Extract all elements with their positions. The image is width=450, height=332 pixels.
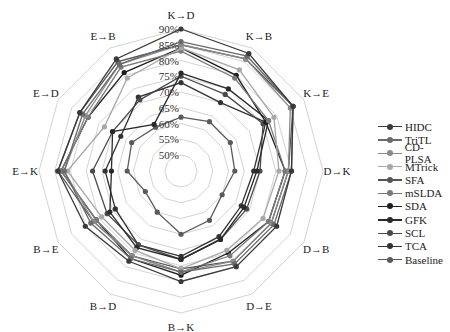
legend-label: SCL [405,227,425,239]
data-point [226,86,231,91]
data-point [178,80,183,85]
axis-label: K→B [246,30,272,42]
radial-tick-label: 60% [159,118,179,130]
series-line [61,51,285,272]
data-point [178,115,183,120]
legend-marker-icon [378,163,402,171]
axis-label: K→E [303,87,329,99]
legend-item: SCL [378,226,450,239]
legend-item: TCA [378,240,450,253]
legend-item: GFK [378,213,450,226]
legend-item: Baseline [378,253,450,266]
data-point [113,206,118,211]
data-point [155,210,160,215]
axis-label: B→K [168,321,194,332]
data-point [117,62,122,67]
axis-label: E→D [33,87,59,99]
data-point [223,92,228,97]
data-point [178,39,183,44]
data-point [125,168,130,173]
data-point [62,168,67,173]
data-point [88,221,93,226]
legend-marker-icon [378,216,402,224]
data-point [109,168,114,173]
axis-label: B→D [90,300,116,312]
data-point [232,168,237,173]
data-point [289,168,294,173]
data-point [232,75,237,80]
data-point [55,168,60,173]
data-point [178,71,183,76]
legend-marker-icon [378,229,402,237]
data-point [266,118,271,123]
data-point [83,224,88,229]
axis-label: D→B [303,243,329,255]
legend-label: SFA [405,174,424,186]
radial-tick-label: 90% [159,23,179,35]
data-point [178,232,183,237]
radial-tick-label: 75% [159,70,179,82]
legend-item: HIDC [378,120,450,133]
legend-label: TCA [405,240,427,252]
data-point [260,216,265,221]
legend-item: mSLDA [378,186,450,199]
data-point [276,168,281,173]
data-point [137,97,142,102]
data-point [178,279,183,284]
legend-marker-icon [378,242,402,250]
data-point [129,140,134,145]
legend-item: SFA [378,173,450,186]
data-point [143,189,148,194]
data-point [178,257,183,262]
data-point [178,26,183,31]
axis-label: E→K [12,165,38,177]
data-point [114,56,119,61]
grid-ring [134,124,229,219]
data-point [271,115,276,120]
data-point [218,237,223,242]
data-point [77,110,82,115]
data-point [110,129,115,134]
radial-tick-label: 80% [159,55,179,67]
legend-marker-icon [378,189,402,197]
radial-tick-label: 55% [159,133,179,145]
radial-tick-label: 70% [159,86,179,98]
legend-label: MTrick [405,161,438,173]
axis-label: D→K [324,165,351,177]
data-point [227,253,232,258]
legend-label: SDA [405,200,427,212]
data-point [234,264,239,269]
data-point [118,134,123,139]
data-point [241,205,246,210]
axis-label: E→B [90,30,115,42]
data-point [152,122,157,127]
data-point [220,192,225,197]
data-point [103,168,108,173]
legend-marker-icon [378,136,402,144]
legend: HIDCTriTLCD-PLSAMTrickSFAmSLDASDAGFKSCLT… [378,120,450,266]
radial-tick-label: 65% [159,102,179,114]
data-point [224,248,229,253]
data-point [126,259,131,264]
data-point [290,104,295,109]
data-point [207,119,212,124]
data-point [207,218,212,223]
data-point [218,100,223,105]
data-point [122,70,127,75]
radial-tick-label: 85% [159,39,179,51]
legend-marker-icon [378,256,402,264]
legend-label: mSLDA [405,187,442,199]
data-point [274,224,279,229]
data-point [90,168,95,173]
data-point [228,140,233,145]
legend-label: Baseline [405,254,443,266]
data-point [133,248,138,253]
data-point [125,75,130,80]
legend-item: CD-PLSA [378,147,450,160]
legend-marker-icon [378,202,402,210]
legend-marker-icon [378,176,402,184]
data-point [237,67,242,72]
radial-tick-labels: 50%55%60%65%70%75%80%85%90% [159,23,179,161]
data-point [246,51,251,56]
axis-label: D→E [246,300,272,312]
